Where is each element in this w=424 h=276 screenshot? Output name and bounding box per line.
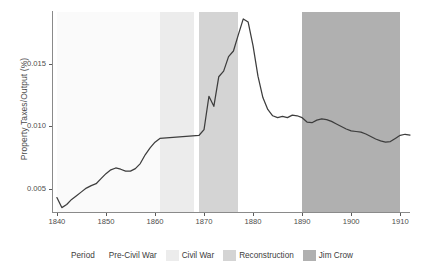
y-tick-label: 0.005: [16, 184, 46, 193]
legend-label: Jim Crow: [319, 251, 353, 260]
x-tick-mark: [204, 213, 205, 216]
x-tick-mark: [400, 213, 401, 216]
chart-legend: Period Pre-Civil War Civil War Reconstru…: [0, 250, 424, 261]
x-tick-label: 1840: [39, 217, 75, 226]
x-tick-label: 1910: [382, 217, 418, 226]
x-tick-label: 1900: [333, 217, 369, 226]
x-tick-mark: [106, 213, 107, 216]
x-tick-mark: [57, 213, 58, 216]
legend-label: Pre-Civil War: [109, 251, 157, 260]
chart-container: Property Taxes/Output (%) 0.0050.0100.01…: [0, 0, 424, 276]
y-tick-label: 0.010: [16, 121, 46, 130]
legend-item-pre-civil-war[interactable]: Pre-Civil War: [109, 251, 157, 260]
legend-label: Reconstruction: [239, 251, 294, 260]
legend-swatch-reconstruction: [223, 250, 236, 261]
y-tick-mark: [49, 189, 52, 190]
legend-item-jim-crow[interactable]: Jim Crow: [303, 250, 353, 261]
x-tick-mark: [253, 213, 254, 216]
legend-title: Period: [71, 251, 95, 260]
legend-swatch-civil-war: [166, 250, 179, 261]
x-tick-label: 1870: [186, 217, 222, 226]
x-tick-mark: [351, 213, 352, 216]
x-tick-label: 1890: [284, 217, 320, 226]
legend-label: Civil War: [182, 251, 214, 260]
y-tick-mark: [49, 126, 52, 127]
legend-item-civil-war[interactable]: Civil War: [166, 250, 214, 261]
series-line-plot: [0, 0, 424, 276]
y-tick-label: 0.015: [16, 59, 46, 68]
y-tick-mark: [49, 64, 52, 65]
legend-swatch-jim-crow: [303, 250, 316, 261]
x-tick-mark: [302, 213, 303, 216]
x-tick-label: 1880: [235, 217, 271, 226]
x-tick-mark: [155, 213, 156, 216]
x-tick-label: 1860: [137, 217, 173, 226]
legend-item-reconstruction[interactable]: Reconstruction: [223, 250, 294, 261]
x-tick-label: 1850: [88, 217, 124, 226]
